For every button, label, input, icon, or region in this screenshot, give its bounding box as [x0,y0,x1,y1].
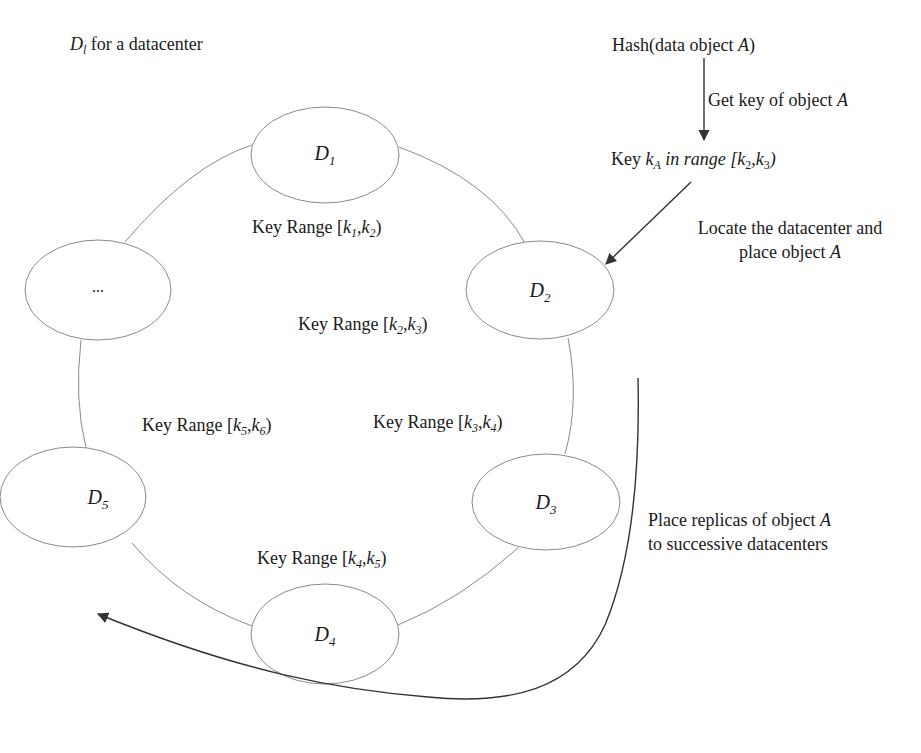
key-range-suffix: ) [380,548,386,568]
key-var: k [646,149,654,169]
node-d1-label: D1 [315,142,336,169]
locate-line2-prefix: place object [739,242,830,262]
locate-line1: Locate the datacenter and [665,219,915,237]
key-range-from: k [348,548,356,568]
datacenter-nodes [0,107,620,684]
node-sub: 5 [102,497,109,512]
key-range-text: in range [k [661,149,746,169]
node-ellipsis-label: ... [92,278,104,296]
key-range-k3-k4: Key Range [k3,k4) [373,413,502,434]
replica-line1-object: A [820,510,831,530]
key-range-suffix: ) [265,415,271,435]
key-range-prefix: Key Range [ [252,217,343,237]
node-symbol: D [315,142,329,164]
connector-d2-d3 [565,338,573,454]
node-symbol: D [536,491,550,513]
key-range-k4-k5: Key Range [k4,k5) [257,549,386,570]
key-in-range-label: Key kA in range [k2,k3) [611,150,776,171]
get-key-object: A [837,90,848,110]
get-key-label: Get key of object A [708,91,848,109]
key-range-suffix: ) [375,217,381,237]
node-symbol: D [88,486,102,508]
replica-label: Place replicas of object A to successive… [648,511,831,553]
diagram-canvas [0,0,921,753]
key-range-from: k [389,314,397,334]
hash-suffix: ) [749,35,755,55]
key-range-k2-k3: Key Range [k2,k3) [298,315,427,336]
node-sub: 4 [329,634,336,649]
connector-ellipsis-d5 [78,340,86,448]
replica-line2: to successive datacenters [648,535,831,553]
key-range-from: k [233,415,241,435]
key-range-suffix: ) [770,149,776,169]
key-prefix: Key [611,149,646,169]
node-sub: 3 [550,502,557,517]
ellipsis-symbol: ... [92,278,104,295]
locate-line2: place object A [665,243,915,261]
get-key-prefix: Get key of object [708,90,837,110]
key-range-suffix: ) [496,412,502,432]
legend-datacenter: Dl for a datacenter [70,35,203,56]
node-d3-label: D3 [536,491,557,518]
connector-d5-d4 [132,543,252,626]
legend-text: for a datacenter [86,34,202,54]
node-sub: 2 [544,290,551,305]
key-range-prefix: Key Range [ [373,412,464,432]
key-range-prefix: Key Range [ [142,415,233,435]
node-d2-label: D2 [530,279,551,306]
connector-d3-d4 [398,548,518,625]
key-range-suffix: ) [421,314,427,334]
key-var-sub: A [654,158,661,172]
key-range-k1-k2: Key Range [k1,k2) [252,218,381,239]
node-symbol: D [530,279,544,301]
node-d4-label: D4 [315,623,336,650]
node-d5-label: D5 [88,486,109,513]
key-range-prefix: Key Range [ [298,314,389,334]
hash-prefix: Hash(data object [612,35,738,55]
replica-line1-prefix: Place replicas of object [648,510,820,530]
node-d5-ellipse[interactable] [0,447,146,547]
key-range-from: k [464,412,472,432]
hash-label: Hash(data object A) [612,36,755,54]
connector-d1-d2 [399,147,525,243]
hash-object: A [738,35,749,55]
node-sub: 1 [329,153,336,168]
key-range-k5-k6: Key Range [k5,k6) [142,416,271,437]
node-symbol: D [315,623,329,645]
legend-symbol: D [70,34,83,54]
key-range-sep: ,k [751,149,764,169]
connector-d1-ellipsis [125,145,252,242]
locate-label: Locate the datacenter and place object A [665,219,915,261]
locate-line2-object: A [830,242,841,262]
replica-line1: Place replicas of object A [648,511,831,529]
key-range-from: k [343,217,351,237]
key-range-prefix: Key Range [ [257,548,348,568]
